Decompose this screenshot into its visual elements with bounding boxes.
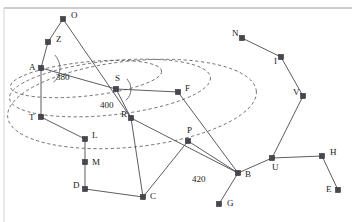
- node-labels-layer: OZATSFRLMDCPBGUHEVIN: [29, 10, 337, 208]
- node-label-s: S: [115, 73, 120, 83]
- graph-node-c[interactable]: [140, 194, 145, 199]
- graph-edge-i-n: [242, 38, 281, 57]
- graph-node-i[interactable]: [278, 54, 283, 59]
- graph-node-a[interactable]: [38, 65, 43, 70]
- diagram-canvas: OZATSFRLMDCPBGUHEVIN 380400420: [0, 0, 352, 222]
- node-label-u: U: [272, 162, 279, 172]
- contour-label-380: 380: [56, 72, 70, 82]
- graph-edge-p-b: [188, 141, 238, 173]
- node-label-t: T: [29, 112, 35, 122]
- graph-node-z[interactable]: [45, 39, 50, 44]
- graph-node-d[interactable]: [82, 186, 87, 191]
- contour-label-400: 400: [100, 100, 114, 110]
- node-label-h: H: [330, 147, 337, 157]
- graph-node-s[interactable]: [113, 86, 118, 91]
- node-label-d: D: [73, 180, 80, 190]
- graph-node-g[interactable]: [216, 201, 221, 206]
- graph-diagram: OZATSFRLMDCPBGUHEVIN 380400420: [0, 0, 352, 222]
- graph-node-o[interactable]: [60, 16, 65, 21]
- node-label-n: N: [232, 28, 239, 38]
- node-label-a: A: [29, 62, 36, 72]
- node-label-v: V: [293, 87, 300, 97]
- graph-node-r[interactable]: [128, 115, 133, 120]
- contour-label-420: 420: [192, 174, 206, 184]
- graph-edge-o-r: [63, 19, 131, 118]
- graph-node-f[interactable]: [175, 89, 180, 94]
- graph-edge-u-v: [272, 96, 303, 158]
- node-label-z: Z: [56, 34, 62, 44]
- graph-node-e[interactable]: [335, 187, 340, 192]
- graph-edge-z-a: [41, 42, 48, 68]
- graph-edge-d-c: [85, 189, 143, 197]
- graph-node-m[interactable]: [82, 159, 87, 164]
- graph-edge-t-l: [41, 117, 85, 139]
- graph-node-u[interactable]: [269, 155, 274, 160]
- graph-edge-s-f: [116, 89, 178, 92]
- node-label-o: O: [71, 10, 78, 20]
- node-label-i: I: [274, 56, 277, 66]
- node-label-l: L: [92, 130, 98, 140]
- graph-edge-c-p: [143, 141, 188, 197]
- node-label-r: R: [121, 109, 127, 119]
- graph-edge-b-u: [238, 158, 272, 173]
- graph-node-h[interactable]: [319, 153, 324, 158]
- graph-node-l[interactable]: [82, 136, 87, 141]
- graph-node-n[interactable]: [239, 35, 244, 40]
- graph-edge-u-h: [272, 156, 322, 158]
- edges-layer: [41, 19, 338, 204]
- node-label-m: M: [92, 157, 100, 167]
- graph-node-t[interactable]: [38, 114, 43, 119]
- node-label-b: B: [245, 169, 251, 179]
- node-label-c: C: [150, 191, 156, 201]
- graph-node-b[interactable]: [235, 170, 240, 175]
- node-label-p: P: [187, 125, 192, 135]
- node-label-g: G: [227, 198, 234, 208]
- node-label-e: E: [326, 184, 332, 194]
- graph-node-v[interactable]: [300, 93, 305, 98]
- graph-edge-r-c: [131, 118, 143, 197]
- node-label-f: F: [185, 83, 190, 93]
- graph-edge-v-i: [281, 57, 303, 96]
- graph-node-p[interactable]: [185, 138, 190, 143]
